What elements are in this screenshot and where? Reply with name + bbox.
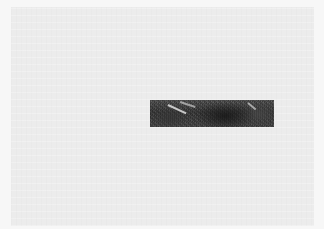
photo-strip [150,100,274,127]
page-background [11,7,314,226]
